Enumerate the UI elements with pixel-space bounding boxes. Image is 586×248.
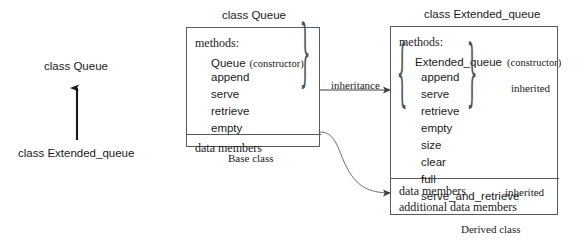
derived-method-size: size (421, 140, 441, 152)
derived-constructor-note: (constructor) (507, 57, 561, 68)
base-method-serve: serve (211, 89, 239, 101)
base-box-title: class Queue (222, 10, 286, 22)
inherited-methods-label: inherited (511, 83, 550, 94)
base-method-empty: empty (211, 123, 242, 135)
left-base-class-label: class Queue (44, 61, 108, 73)
base-constructor-name: Queue (211, 57, 246, 69)
inherited-data-label: inherited (505, 187, 544, 198)
derived-inherited-brace-right: } (467, 37, 478, 111)
base-box-divider (187, 134, 321, 135)
base-constructor-row: Queue(constructor) (211, 54, 304, 70)
derived-method-empty: empty (421, 123, 452, 135)
derived-method-append: append (421, 72, 459, 84)
base-method-retrieve: retrieve (211, 106, 249, 118)
base-method-append: append (211, 72, 249, 84)
base-constructor-note: (constructor) (250, 58, 304, 69)
derived-inherited-brace-left: { (397, 37, 408, 111)
derived-constructor-name: Extended_queue (415, 56, 502, 68)
diagram-canvas: class Queue class Extended_queue class Q… (0, 0, 586, 248)
base-box-caption: Base class (228, 153, 274, 164)
derived-method-clear: clear (421, 157, 446, 169)
base-methods-header: methods: (195, 37, 239, 49)
derived-data-members: data members (399, 185, 466, 197)
derived-box-caption: Derived class (461, 224, 521, 235)
derived-method-retrieve: retrieve (421, 106, 459, 118)
base-methods-brace: } (300, 17, 311, 91)
derived-method-serve: serve (421, 89, 449, 101)
derived-additional-data-members: additional data members (399, 201, 517, 213)
inheritance-label: inheritance (331, 80, 380, 91)
derived-constructor-row: Extended_queue(constructor) (415, 53, 561, 69)
derived-box-divider (391, 178, 559, 179)
derived-box-title: class Extended_queue (424, 9, 540, 21)
left-derived-class-label: class Extended_queue (18, 148, 134, 160)
